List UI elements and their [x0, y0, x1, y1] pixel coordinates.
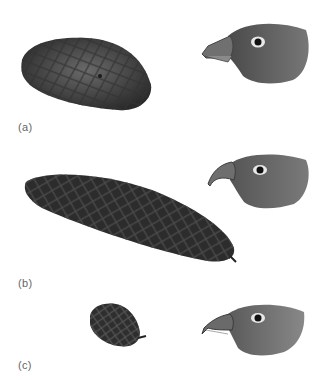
- panel-label-b: (b): [18, 277, 32, 289]
- bird-head-a: [198, 18, 313, 88]
- pine-cone-a-icon: [18, 30, 158, 120]
- crossbill-head-a-icon: [198, 18, 313, 88]
- panel-label-a: (a): [18, 121, 32, 133]
- bird-head-b: [204, 150, 314, 215]
- crossbill-head-b-icon: [204, 150, 314, 215]
- bird-head-c: [198, 300, 313, 360]
- panel-label-c: (c): [18, 359, 32, 371]
- crossbill-head-c-icon: [198, 300, 313, 360]
- cone-c: [86, 300, 151, 350]
- cone-a: [18, 30, 158, 120]
- pine-cone-c-icon: [86, 300, 151, 350]
